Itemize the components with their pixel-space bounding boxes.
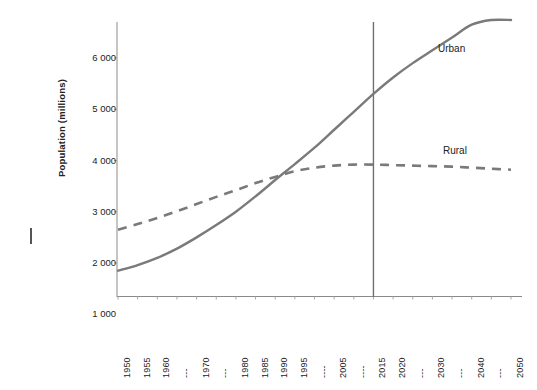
x-axis-tick-label: ---- bbox=[319, 365, 329, 378]
x-axis-tick-label: 1995 bbox=[299, 357, 309, 378]
x-axis-tick-label: --- bbox=[456, 368, 466, 378]
x-axis-tick-labels: 195019551960---1970---1980198519901995--… bbox=[0, 0, 537, 390]
x-axis-tick-label: --- bbox=[181, 368, 191, 378]
x-axis-tick-label: ---- bbox=[358, 365, 368, 378]
x-axis-tick-label: 1985 bbox=[260, 357, 270, 378]
x-axis-tick-label: 2030 bbox=[436, 357, 446, 378]
x-axis-tick-label: --- bbox=[495, 368, 505, 378]
x-axis-tick-label: --- bbox=[220, 368, 230, 378]
population-chart: Population (millions) 6 0005 0004 0003 0… bbox=[0, 0, 537, 390]
x-axis-tick-label: 2015 bbox=[377, 357, 387, 378]
x-axis-tick-label: 2040 bbox=[476, 357, 486, 378]
x-axis-tick-label: 1970 bbox=[201, 357, 211, 378]
x-axis-tick-label: 1960 bbox=[161, 357, 171, 378]
x-axis-tick-label: 2020 bbox=[397, 357, 407, 378]
x-axis-tick-label: 1955 bbox=[142, 357, 152, 378]
x-axis-tick-label: 1950 bbox=[122, 357, 132, 378]
x-axis-tick-label: 2005 bbox=[338, 357, 348, 378]
x-axis-tick-label: 2050 bbox=[515, 357, 525, 378]
series-label-urban: Urban bbox=[438, 43, 465, 54]
series-label-rural: Rural bbox=[443, 145, 467, 156]
x-axis-tick-label: 1990 bbox=[279, 357, 289, 378]
x-axis-tick-label: 1980 bbox=[240, 357, 250, 378]
x-axis-tick-label: --- bbox=[417, 368, 427, 378]
